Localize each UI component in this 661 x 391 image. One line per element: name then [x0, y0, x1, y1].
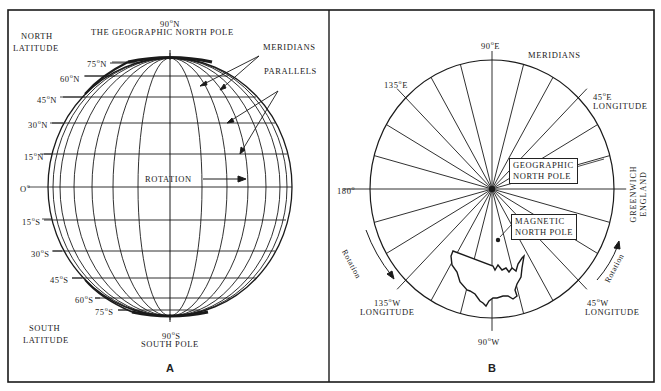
magnetic-pole-dot — [496, 238, 500, 242]
lat-15s: 15oS — [22, 214, 41, 227]
geographic-pole-dot — [489, 186, 495, 192]
lon-90w: 90oW — [478, 334, 500, 347]
geo-pole-line2: NORTH POLE — [513, 171, 574, 182]
geo-pole-line1: GEOGRAPHIC — [513, 160, 574, 171]
lon-90e: 90oE — [481, 38, 500, 51]
globe-a — [48, 50, 292, 322]
lat-45s: 45oS — [50, 272, 69, 285]
lat-60n: 60oN — [60, 71, 80, 84]
mag-pole-line2: NORTH POLE — [515, 227, 573, 238]
lat-45n: 45oN — [37, 92, 57, 105]
magnetic-north-pole-box: MAGNETIC NORTH POLE — [511, 214, 577, 240]
geographic-north-pole-title: THE GEOGRAPHIC NORTH POLE — [91, 27, 234, 37]
lon-135e: 135oE — [384, 77, 408, 90]
parallels-label: PARALLELS — [264, 66, 317, 76]
lat-30s: 30oS — [31, 246, 50, 259]
lon-45w-longitude: LONGITUDE — [585, 307, 640, 317]
greenwich-line1: GREENWICH — [629, 158, 639, 230]
panel-b-letter: B — [488, 362, 496, 374]
rotation-arrow-a — [203, 176, 246, 182]
lat-equator: Oo — [20, 181, 30, 194]
south-latitude-line2: LATITUDE — [23, 335, 69, 345]
lat-15n: 15oN — [24, 149, 44, 162]
south-pole-title: SOUTH POLE — [141, 339, 199, 349]
geographic-north-pole-box: GEOGRAPHIC NORTH POLE — [509, 158, 578, 184]
rotation-label-a: ROTATION — [145, 174, 192, 184]
lat-60s: 60oS — [75, 292, 94, 305]
south-latitude-line1: SOUTH — [29, 323, 60, 333]
figure-stage: 90oN THE GEOGRAPHIC NORTH POLE NORTH LAT… — [0, 0, 661, 391]
north-latitude-line1: NORTH — [21, 31, 53, 41]
panel-a-letter: A — [166, 362, 174, 374]
lat-75n: 75oN — [87, 56, 107, 69]
meridians-label-b: MERIDIANS — [528, 50, 581, 60]
lon-135w-longitude: LONGITUDE — [360, 307, 415, 317]
parallels-a — [44, 63, 292, 310]
mag-pole-line1: MAGNETIC — [515, 216, 573, 227]
lat-30n: 30oN — [28, 117, 48, 130]
lat-75s: 75oS — [95, 304, 114, 317]
parallel-pointers — [227, 91, 278, 154]
lon-180: 180o — [337, 183, 355, 196]
usa-outline — [451, 251, 524, 306]
geo-pole-leader — [576, 159, 604, 167]
lon-45e-longitude: LONGITUDE — [593, 101, 648, 111]
greenwich-line2: ENGLAND — [639, 158, 649, 230]
meridians-label-a: MERIDIANS — [263, 42, 316, 52]
north-latitude-line2: LATITUDE — [13, 43, 59, 53]
greenwich-england-label: GREENWICH ENGLAND — [629, 158, 651, 230]
